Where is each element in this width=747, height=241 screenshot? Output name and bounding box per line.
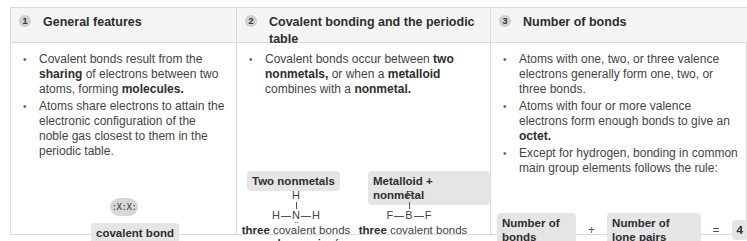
header-number-of-bonds: 3 Number of bonds	[491, 8, 747, 43]
periodic-table-body: Covalent bonds occur between two nonmeta…	[237, 43, 491, 234]
lewis-dot-illustration: :X:X:	[110, 198, 138, 216]
bullet-item: Covalent bonds result from the sharing o…	[21, 52, 226, 97]
section-number-badge: 1	[19, 15, 31, 27]
two-nonmetals-tag: Two nonmetals	[247, 171, 340, 191]
bonding-rule-equation: Number of bonds + Number of lone pairs =…	[497, 213, 747, 241]
bullet-item: Atoms share electrons to attain the elec…	[21, 99, 226, 159]
covalent-bond-tag: covalent bond	[91, 223, 179, 241]
boron-trifluoride-structure: F FBF	[384, 190, 434, 221]
number-of-bonds-term: Number of bonds	[497, 213, 576, 241]
header-general-features: 1 General features	[11, 8, 237, 43]
section-number-badge: 3	[499, 15, 511, 27]
covalent-bonding-summary-table: 1 General features 2 Covalent bonding an…	[10, 7, 747, 235]
result-value: 4	[732, 220, 747, 240]
bullet-item: Except for hydrogen, bonding in common m…	[501, 146, 738, 176]
section-title: Number of bonds	[523, 14, 626, 31]
bullet-item: Covalent bonds occur between two nonmeta…	[247, 52, 480, 97]
bullet-item: Atoms with one, two, or three valence el…	[501, 52, 738, 97]
general-features-body: Covalent bonds result from the sharing o…	[11, 43, 237, 234]
lone-pairs-term: Number of lone pairs	[607, 213, 700, 241]
bullet-item: Atoms with four or more valence electron…	[501, 99, 738, 144]
equals-operator: =	[713, 223, 720, 237]
ammonia-structure: H HNH	[271, 190, 321, 221]
section-number-badge: 2	[245, 15, 257, 27]
header-periodic-table: 2 Covalent bonding and the periodic tabl…	[237, 8, 491, 43]
ammonia-caption: three covalent bonds one lone pair of el…	[239, 224, 353, 241]
bf3-caption: three covalent bonds	[353, 224, 473, 237]
section-title: General features	[43, 14, 142, 31]
plus-operator: +	[588, 223, 595, 237]
number-of-bonds-body: Atoms with one, two, or three valence el…	[491, 43, 747, 234]
